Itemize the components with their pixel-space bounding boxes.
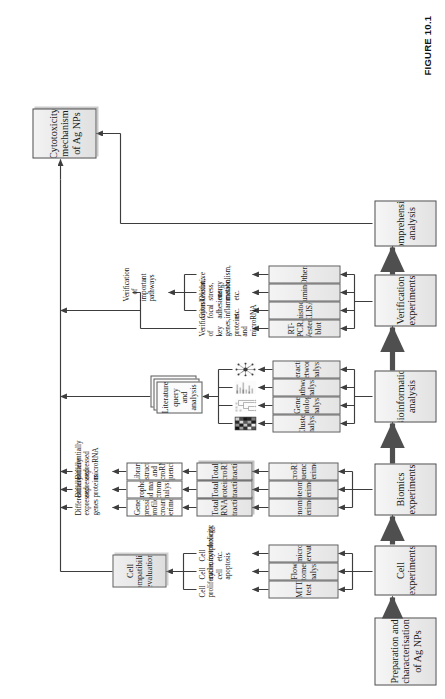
biomics-method-genomics-label: Genomics experiments: [294, 498, 312, 516]
literature-query-and-analysis-label: Literature query and analysis: [156, 381, 202, 413]
cell-compatibility-evaluation-label: Cell compatibility evaluation: [125, 554, 153, 587]
cell-method-flow-cytometry-label: Flow cytometry analysis: [289, 562, 316, 580]
cell-method-sem-microscopy[interactable]: SEM/microscopy observation: [268, 544, 338, 562]
cell-outcome-cycle-apoptosis-label: Cell cycle, cell apoptosis: [198, 563, 232, 579]
verif-method-immunohistochemical-elisa[interactable]: Immunohistochemical, ELISA: [268, 301, 340, 319]
stage-biomics-experiments-label: Biomics experiments: [394, 464, 417, 514]
biomics-assay-electrophoresis-ms[interactable]: Electrophoresis and mass spectrometry an…: [126, 480, 182, 498]
verif-target-cytoskeleton-label: Cytoskeleton, focal adhesions, inflammat…: [198, 302, 240, 318]
bioinf-method-gene-ontology-analysis[interactable]: Gene ontology analysis: [272, 396, 340, 414]
stage-verification-experiments-label: Verification experiments: [394, 275, 417, 325]
verif-method-others[interactable]: Others: [268, 265, 340, 283]
verif-target-oxidative-stress-label: Oxidative stress, energy metabolism, etc…: [198, 284, 240, 300]
verif-summary-important-pathways-label: Verification of important pathways: [122, 281, 156, 301]
bioinf-method-interaction-network-analysis[interactable]: Interaction network analysis: [272, 360, 340, 378]
verif-method-others-label: Others: [299, 265, 308, 283]
biomics-assay-gene-expression-microarray-label: Gene expression profile microarray exper…: [133, 498, 174, 516]
cell-method-sem-microscopy-label: SEM/microscopy observation: [294, 544, 312, 562]
biomics-output-de-proteins: Differentially expressed proteins: [74, 481, 112, 497]
stage-comprehensive-analysis-label: Comprehensive analysis: [394, 200, 417, 246]
biomics-extraction-total-microrna-label: Total microRNA extraction: [210, 462, 237, 480]
cell-outcome-proliferation: Cell proliferation/cytotoxicity: [198, 581, 250, 597]
biomics-assay-library-construction[interactable]: Library construction and microRNA sequen…: [126, 462, 182, 480]
figure-root: Preparation and characterisation of Ag N…: [0, 0, 445, 699]
stage-preparation-label: Preparation and characterisation of Ag N…: [388, 619, 422, 683]
cell-outcome-proliferation-label: Cell proliferation/cytotoxicity: [198, 581, 215, 597]
biomics-assay-gene-expression-microarray[interactable]: Gene expression profile microarray exper…: [126, 498, 182, 516]
heatmap-thumbnail: [234, 416, 256, 430]
stage-bioinformatics-analysis-label: Bioinformatics analysis: [394, 370, 417, 422]
biomics-extraction-total-rna-label: Total RNA extraction: [210, 498, 237, 516]
verif-target-ellipsis-label: …: [198, 266, 206, 282]
stage-preparation[interactable]: Preparation and characterisation of Ag N…: [374, 617, 436, 685]
bioinf-method-pathway-analysis[interactable]: Pathway analysis: [272, 378, 340, 396]
cell-outcome-morphology: Cell morphology, etc.: [198, 545, 250, 561]
biomics-method-microrna-sequencing[interactable]: MicroRNA sequencing experiments: [268, 462, 338, 480]
verif-method-immunohistochemical-elisa-label: Immunohistochemical, ELISA: [295, 301, 313, 319]
verif-target-cytoskeleton: Cytoskeleton, focal adhesions, inflammat…: [198, 302, 250, 318]
literature-query-and-analysis[interactable]: Literature query and analysis: [150, 373, 202, 413]
cell-outcome-cycle-apoptosis: Cell cycle, cell apoptosis: [198, 563, 250, 579]
bioinf-method-interaction-network-analysis-label: Interaction network analysis: [292, 360, 319, 378]
cell-compatibility-evaluation[interactable]: Cell compatibility evaluation: [112, 554, 166, 587]
figure-caption: FIGURE 10.1: [421, 15, 432, 75]
verif-method-chemiluminescence-label: Chemiluminescence: [299, 283, 308, 301]
cell-outcome-morphology-label: Cell morphology, etc.: [198, 545, 223, 561]
biomics-method-genomics[interactable]: Genomics experiments: [268, 498, 338, 516]
cluster-dendrogram-thumbnail: [234, 398, 256, 412]
stage-comprehensive-analysis[interactable]: Comprehensive analysis: [374, 200, 436, 246]
verif-summary-important-pathways: Verification of important pathways: [122, 281, 168, 301]
bioinf-method-cluster-analysis-label: Cluster analysis: [297, 414, 315, 432]
biomics-method-proteomics-label: Proteomics experiments: [294, 480, 312, 498]
cell-method-mtt-label: MTT test: [294, 581, 312, 598]
verif-target-oxidative-stress: Oxidative stress, energy metabolism, etc…: [198, 284, 250, 300]
stage-biomics-experiments[interactable]: Biomics experiments: [374, 463, 436, 515]
go-chart-thumbnail: [234, 380, 256, 394]
verif-target-key-genes-label: Verification of key genes, proteins and …: [198, 320, 257, 336]
biomics-assay-library-construction-label: Library construction and microRNA sequen…: [133, 462, 174, 480]
biomics-output-de-microrna-label: Differentially expressed microRNA: [74, 463, 99, 479]
biomics-extraction-total-protein-label: Total protein extraction: [210, 480, 237, 498]
final-node-cytotoxicity-mechanism[interactable]: Cytotoxicity mechanism of Ag NPs: [32, 108, 96, 158]
stage-verification-experiments[interactable]: Verification experiments: [374, 274, 436, 326]
biomics-extraction-total-microrna[interactable]: Total microRNA extraction: [196, 462, 252, 480]
biomics-output-de-genes: Differentially expressed genes: [74, 499, 112, 515]
biomics-output-de-microrna: Differentially expressed microRNA: [74, 463, 114, 479]
biomics-method-proteomics[interactable]: Proteomics experiments: [268, 480, 338, 498]
network-graph-thumbnail: [234, 362, 256, 376]
biomics-extraction-total-rna[interactable]: Total RNA extraction: [196, 498, 252, 516]
bioinf-method-cluster-analysis[interactable]: Cluster analysis: [272, 414, 340, 432]
biomics-assay-electrophoresis-ms-label: Electrophoresis and mass spectrometry an…: [137, 480, 170, 498]
biomics-extraction-total-protein[interactable]: Total protein extraction: [196, 480, 252, 498]
cell-method-flow-cytometry[interactable]: Flow cytometry analysis: [268, 562, 338, 580]
biomics-output-de-genes-label: Differentially expressed genes: [74, 499, 99, 515]
bioinf-method-pathway-analysis-label: Pathway analysis: [297, 378, 315, 396]
bioinf-method-gene-ontology-analysis-label: Gene ontology analysis: [292, 396, 319, 414]
flowchart-canvas: Preparation and characterisation of Ag N…: [0, 0, 445, 699]
final-node-cytotoxicity-mechanism-label: Cytotoxicity mechanism of Ag NPs: [47, 108, 81, 158]
biomics-method-microrna-sequencing-label: MicroRNA sequencing experiments: [289, 462, 316, 480]
verif-method-chemiluminescence[interactable]: Chemiluminescence: [268, 283, 340, 301]
stage-cell-experiments[interactable]: Cell experiments: [374, 545, 436, 595]
stage-cell-experiments-label: Cell experiments: [394, 545, 417, 595]
verif-target-key-genes: Verification of key genes, proteins and …: [198, 320, 250, 336]
verif-method-rtpcr-western-blot[interactable]: RT-PCR, Western blot: [268, 319, 340, 337]
verif-target-ellipsis: …: [198, 266, 218, 282]
biomics-output-de-proteins-label: Differentially expressed proteins: [74, 481, 99, 497]
cell-method-mtt[interactable]: MTT test: [268, 580, 338, 598]
stage-bioinformatics-analysis[interactable]: Bioinformatics analysis: [374, 370, 436, 422]
verif-method-rtpcr-western-blot-label: RT-PCR, Western blot: [286, 319, 322, 337]
